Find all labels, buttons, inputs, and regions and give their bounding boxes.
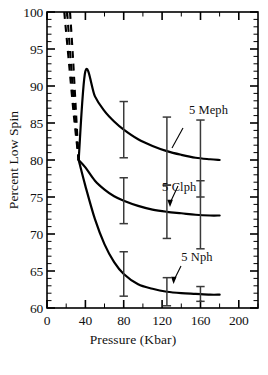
y-tick-label: 70 — [30, 227, 44, 242]
x-tick-label: 160 — [191, 313, 211, 328]
x-axis-title: Pressure (Kbar) — [90, 332, 177, 347]
x-tick-label: 40 — [79, 313, 93, 328]
y-tick-label: 85 — [30, 116, 44, 131]
series-5-nph-label: 5 Nph — [181, 250, 213, 264]
x-tick-label: 200 — [229, 313, 249, 328]
y-tick-label: 65 — [30, 264, 44, 279]
y-tick-label: 90 — [30, 79, 44, 94]
y-tick-label: 95 — [30, 42, 44, 57]
x-tick-label: 0 — [44, 313, 51, 328]
y-tick-label: 75 — [30, 190, 44, 205]
y-axis-title: Percent Low Spin — [6, 111, 21, 209]
series-5-clph-label: 5 Clph — [162, 180, 197, 194]
y-tick-label: 80 — [30, 153, 44, 168]
y-tick-label: 60 — [30, 301, 44, 316]
series-5-meph-label: 5 Meph — [189, 103, 229, 117]
spin-crossover-chart: 100 95 90 85 80 — [0, 0, 268, 375]
x-tick-label: 120 — [152, 313, 172, 328]
y-tick-label: 100 — [23, 5, 43, 20]
x-tick-label: 80 — [117, 313, 131, 328]
figure-container: 100 95 90 85 80 — [0, 0, 268, 375]
